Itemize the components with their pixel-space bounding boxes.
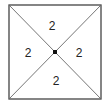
diagram: 2 2 2 2 [0, 0, 106, 106]
region-left-label: 2 [25, 46, 32, 60]
region-bottom-label: 2 [53, 74, 60, 88]
region-top-label: 2 [49, 19, 56, 33]
region-right-label: 2 [76, 46, 83, 60]
center-dot [53, 50, 57, 54]
